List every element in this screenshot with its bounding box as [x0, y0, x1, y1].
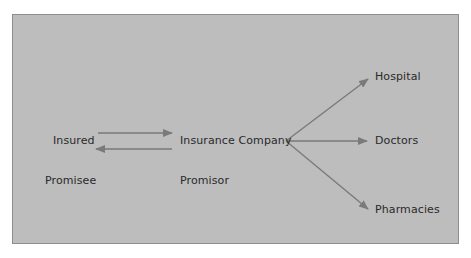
role-promisee: Promisee: [45, 174, 96, 187]
node-pharmacies: Pharmacies: [375, 203, 440, 216]
node-doctors: Doctors: [375, 134, 418, 147]
arrow-company-to-hospital: [286, 79, 368, 141]
role-promisor: Promisor: [180, 174, 229, 187]
arrow-company-to-pharmacies: [286, 141, 368, 209]
node-hospital: Hospital: [375, 70, 421, 83]
node-insurance-company: Insurance Company: [180, 134, 292, 147]
node-insured: Insured: [53, 134, 95, 147]
arrows-layer: [0, 0, 471, 258]
